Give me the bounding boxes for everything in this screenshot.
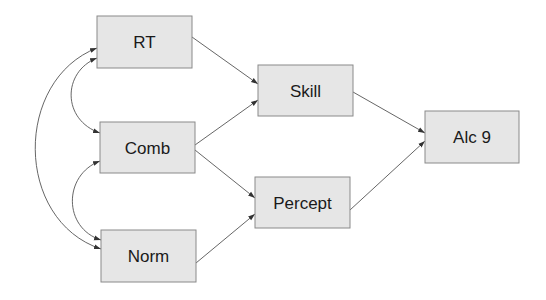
node-skill-label: Skill [290, 82, 321, 101]
edge-comb-skill [195, 100, 258, 145]
node-rt-label: RT [133, 33, 155, 52]
edge-comb-percept [195, 150, 255, 198]
node-alc9-label: Alc 9 [453, 128, 491, 147]
node-skill: Skill [258, 65, 353, 116]
covariance-comb-norm [72, 161, 101, 240]
edge-rt-skill [192, 37, 258, 84]
node-rt: RT [97, 16, 192, 68]
covariance-rt-comb [71, 58, 100, 133]
node-percept-label: Percept [273, 194, 332, 213]
path-diagram: RT Comb Norm Skill Percept Alc 9 [0, 0, 546, 300]
edge-percept-alc9 [350, 141, 425, 210]
edge-skill-alc9 [353, 92, 425, 133]
node-norm: Norm [101, 230, 196, 282]
node-alc9: Alc 9 [425, 111, 519, 163]
node-comb: Comb [100, 122, 195, 173]
node-comb-label: Comb [125, 139, 170, 158]
edge-norm-percept [196, 214, 255, 263]
covariance-rt-norm [35, 48, 101, 249]
node-norm-label: Norm [128, 247, 170, 266]
node-percept: Percept [255, 177, 350, 228]
covariance-edges [35, 48, 101, 249]
